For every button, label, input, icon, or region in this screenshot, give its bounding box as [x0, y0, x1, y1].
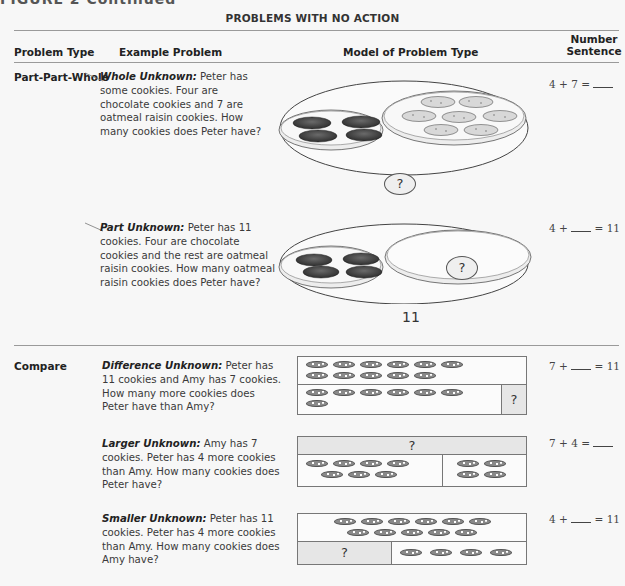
sentence-left: 4 + — [549, 513, 571, 525]
sentence-right: = 11 — [591, 513, 620, 525]
header-bottom-rule — [14, 62, 619, 63]
col-header-model: Model of Problem Type — [343, 46, 478, 58]
problem-difference-unknown: Difference Unknown: Peter has 11 cookies… — [102, 359, 282, 414]
sentence-left: 4 + — [549, 222, 571, 234]
model-larger-unknown-bar: ? — [297, 436, 527, 487]
problem-larger-unknown: Larger Unknown: Amy has 7 cookies. Peter… — [102, 437, 282, 492]
part-unknown-total-label: 11 — [402, 309, 420, 325]
col-header-number-sentence: Number Sentence — [566, 33, 622, 57]
model-part-unknown-plates — [276, 222, 540, 304]
section-title: PROBLEMS WITH NO ACTION — [0, 12, 625, 24]
bar-peter-row — [298, 514, 526, 542]
model-smaller-unknown-bar: ? — [297, 513, 527, 565]
number-sentence-larger-unknown: 7 + 4 = — [549, 437, 613, 449]
bar-amy-row — [298, 385, 502, 414]
bar-difference-unknown-cell: ? — [502, 385, 526, 414]
bar-larger-unknown-cell: ? — [298, 437, 526, 455]
sentence-blank — [571, 513, 591, 523]
header-top-rule — [14, 30, 619, 31]
section-divider — [14, 345, 619, 346]
sentence-blank — [593, 437, 613, 447]
problem-label: Part Unknown: — [100, 222, 184, 233]
whole-unknown-question-bubble: ? — [384, 173, 416, 195]
problem-label: Smaller Unknown: — [102, 513, 207, 524]
bar-smaller-unknown-cell: ? — [298, 542, 392, 564]
problem-label: Larger Unknown: — [102, 438, 200, 449]
number-sentence-smaller-unknown: 4 + = 11 — [549, 513, 620, 525]
problem-part-unknown: Part Unknown: Peter has 11 cookies. Four… — [100, 221, 278, 290]
sentence-blank — [593, 78, 613, 88]
bar-extra-cookies — [443, 455, 526, 486]
sentence-left: 4 + 7 = — [549, 78, 593, 90]
problem-whole-unknown: Whole Unknown: Peter has some cookies. F… — [100, 70, 270, 139]
sentence-blank — [571, 222, 591, 232]
col-header-example-problem: Example Problem — [119, 46, 222, 58]
problem-label: Whole Unknown: — [100, 71, 197, 82]
col-header-problem-type: Problem Type — [14, 46, 94, 58]
problem-type-compare: Compare — [14, 360, 67, 372]
figure-label: FIGURE 2 Continued — [0, 0, 176, 7]
col-header-number-line2: Sentence — [566, 45, 622, 57]
number-sentence-part-unknown: 4 + = 11 — [549, 222, 620, 234]
col-header-number-line1: Number — [566, 33, 622, 45]
sentence-blank — [571, 360, 591, 370]
problem-smaller-unknown: Smaller Unknown: Peter has 11 cookies. P… — [102, 512, 282, 567]
bar-peter-row — [298, 357, 526, 385]
sentence-left: 7 + — [549, 360, 571, 372]
bar-extra-cookies — [392, 542, 526, 564]
number-sentence-difference-unknown: 7 + = 11 — [549, 360, 620, 372]
number-sentence-whole-unknown: 4 + 7 = — [549, 78, 613, 90]
bar-amy-cookies — [298, 455, 443, 486]
sentence-right: = 11 — [591, 222, 620, 234]
model-difference-unknown-bar: ? — [297, 356, 527, 415]
part-unknown-question-bubble: ? — [446, 256, 478, 280]
sentence-left: 7 + 4 = — [549, 437, 593, 449]
sentence-right: = 11 — [591, 360, 620, 372]
problem-label: Difference Unknown: — [102, 360, 222, 371]
